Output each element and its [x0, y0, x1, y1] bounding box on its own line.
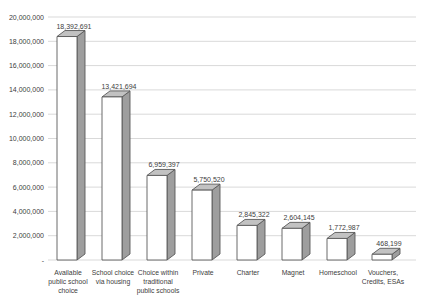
- category-label-line: public school: [48, 278, 88, 286]
- bar-side-face: [212, 184, 220, 260]
- category-label-choice-within-traditional-public-schools: Choice withintraditionalpublic schools: [137, 269, 180, 295]
- category-label-line: Credits, ESAs: [362, 278, 405, 285]
- y-tick-label: -: [42, 257, 45, 264]
- bar-front-face: [282, 228, 302, 260]
- bar-front-face: [237, 225, 257, 260]
- bar-value-label: 13,421,694: [101, 83, 136, 90]
- category-label-line: School choice: [92, 269, 135, 276]
- y-tick-label: 16,000,000: [9, 62, 44, 69]
- bar-side-face: [77, 31, 85, 260]
- bar-front-face: [327, 238, 347, 260]
- category-label-magnet: Magnet: [282, 269, 305, 277]
- bar-front-face: [102, 97, 122, 260]
- bar-value-label: 2,845,322: [238, 211, 269, 218]
- category-label-line: Vouchers,: [368, 269, 398, 276]
- bar-available-public-school-choice: [57, 31, 85, 260]
- bar-homeschool: [327, 232, 355, 260]
- bar-charter: [237, 219, 265, 260]
- category-label-line: Private: [192, 269, 213, 276]
- category-label-charter: Charter: [237, 269, 260, 276]
- category-label-line: Choice within: [138, 269, 179, 276]
- bar-value-label: 468,199: [376, 240, 401, 247]
- category-label-available-public-school-choice: Availablepublic schoolchoice: [48, 269, 88, 294]
- bar-front-face: [57, 37, 77, 260]
- bar-front-face: [372, 254, 392, 260]
- category-label-line: choice: [58, 287, 78, 294]
- category-label-line: traditional: [143, 278, 173, 285]
- y-tick-label: 20,000,000: [9, 14, 44, 21]
- y-tick-label: 2,000,000: [13, 232, 44, 239]
- chart-container: 20,000,00018,000,00016,000,00014,000,000…: [0, 0, 424, 299]
- bar-side-face: [257, 219, 265, 260]
- y-tick-label: 12,000,000: [9, 111, 44, 118]
- bar-magnet: [282, 222, 310, 260]
- bar-chart: 20,000,00018,000,00016,000,00014,000,000…: [0, 0, 424, 299]
- y-tick-label: 6,000,000: [13, 184, 44, 191]
- category-label-line: Charter: [237, 269, 260, 276]
- bar-vouchers-credits-esas: [372, 248, 400, 260]
- y-tick-label: 4,000,000: [13, 208, 44, 215]
- category-label-line: Homeschool: [319, 269, 357, 276]
- y-tick-label: 18,000,000: [9, 38, 44, 45]
- bar-front-face: [147, 175, 167, 260]
- category-label-line: Available: [54, 269, 82, 276]
- category-label-line: via housing: [96, 278, 131, 286]
- bar-side-face: [122, 91, 130, 260]
- category-label-line: Magnet: [282, 269, 305, 277]
- category-label-vouchers-credits-esas: Vouchers,Credits, ESAs: [362, 269, 405, 285]
- bar-value-label: 6,959,397: [148, 161, 179, 168]
- category-label-private: Private: [192, 269, 213, 276]
- bar-value-label: 18,392,691: [56, 23, 91, 30]
- bar-private: [192, 184, 220, 260]
- category-label-school-choice-via-housing: School choicevia housing: [92, 269, 135, 286]
- bar-front-face: [192, 190, 212, 260]
- bar-choice-within-traditional-public-schools: [147, 169, 175, 260]
- y-tick-label: 14,000,000: [9, 86, 44, 93]
- bar-value-label: 2,604,145: [283, 214, 314, 221]
- category-label-homeschool: Homeschool: [319, 269, 357, 276]
- bar-value-label: 5,750,520: [193, 176, 224, 183]
- category-label-line: public schools: [137, 287, 180, 295]
- bar-side-face: [167, 169, 175, 260]
- bar-school-choice-via-housing: [102, 91, 130, 260]
- y-tick-label: 10,000,000: [9, 135, 44, 142]
- y-tick-label: 8,000,000: [13, 159, 44, 166]
- bar-value-label: 1,772,987: [328, 224, 359, 231]
